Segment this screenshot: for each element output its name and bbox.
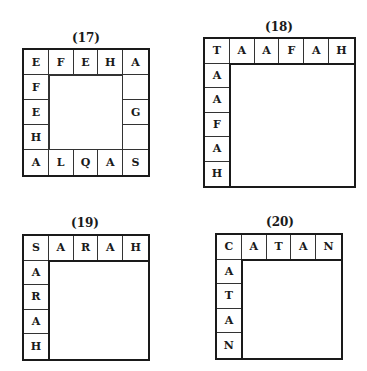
grid-cell-top: A	[123, 50, 148, 75]
empty-answer-area	[48, 260, 148, 359]
grid-cell-top: A	[304, 39, 329, 64]
grid-cell-top: A	[255, 39, 280, 64]
grid-cell-top: E	[74, 50, 99, 75]
puzzle-20-grid: CATANATAN	[215, 233, 343, 360]
grid-cell-right: G	[123, 100, 148, 125]
grid-cell-top: E	[24, 50, 49, 75]
puzzle-20-label: (20)	[260, 215, 300, 229]
grid-cell-left: A	[217, 309, 242, 334]
grid-cell-bottom: Q	[74, 150, 99, 175]
grid-cell-left: A	[24, 310, 49, 335]
grid-cell-left: H	[24, 334, 49, 359]
grid-cell-right	[123, 75, 148, 100]
puzzle-17-label: (17)	[66, 31, 106, 45]
empty-answer-area	[229, 63, 354, 187]
grid-cell-bottom: S	[123, 150, 148, 175]
grid-cell-top: A	[230, 39, 255, 64]
grid-cell-left: N	[217, 333, 242, 358]
grid-cell-left: A	[205, 64, 230, 89]
grid-cell-left: A	[217, 260, 242, 285]
grid-cell-top: T	[267, 235, 292, 260]
grid-cell-top: A	[98, 236, 123, 261]
puzzle-17-grid: EFEHAFEHALQASG	[22, 48, 150, 177]
grid-cell-left: F	[24, 75, 49, 100]
puzzle-18-label: (18)	[259, 20, 299, 34]
puzzle-19-grid: SARAHARAH	[22, 234, 150, 361]
grid-cell-top: A	[49, 236, 74, 261]
grid-cell-left: T	[217, 284, 242, 309]
grid-cell-top: H	[329, 39, 354, 64]
puzzle-18-grid: TAAFAHAAFAH	[203, 37, 356, 188]
grid-cell-left: H	[24, 125, 49, 150]
grid-cell-right	[123, 125, 148, 150]
puzzle-19-label: (19)	[65, 216, 105, 230]
grid-cell-top: N	[316, 235, 341, 260]
grid-cell-bottom: L	[49, 150, 74, 175]
grid-cell-left: A	[24, 150, 49, 175]
grid-cell-left: H	[205, 162, 230, 187]
grid-cell-top: F	[280, 39, 305, 64]
grid-cell-top: R	[74, 236, 99, 261]
grid-cell-top: F	[49, 50, 74, 75]
grid-cell-left: A	[205, 88, 230, 113]
grid-cell-left: A	[205, 137, 230, 162]
grid-cell-left: F	[205, 113, 230, 138]
grid-cell-top: S	[24, 236, 49, 261]
grid-cell-left: R	[24, 285, 49, 310]
grid-cell-top: A	[242, 235, 267, 260]
grid-cell-bottom: A	[98, 150, 123, 175]
grid-cell-top: A	[291, 235, 316, 260]
empty-center-area	[49, 75, 123, 150]
grid-cell-top: T	[205, 39, 230, 64]
empty-answer-area	[241, 259, 341, 358]
grid-cell-left: E	[24, 100, 49, 125]
grid-cell-left: A	[24, 261, 49, 286]
grid-cell-top: H	[98, 50, 123, 75]
grid-cell-top: H	[123, 236, 148, 261]
grid-cell-top: C	[217, 235, 242, 260]
